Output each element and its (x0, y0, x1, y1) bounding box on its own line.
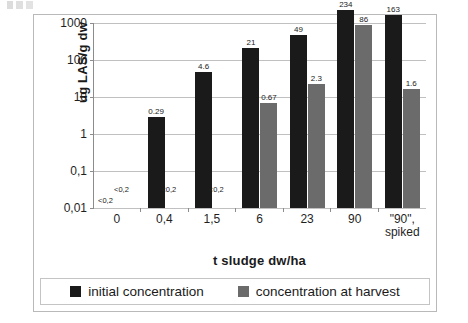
x-tick-label-6: 6 (236, 213, 284, 239)
bar-value-harvest-90-spiked: 1.6 (406, 79, 417, 88)
bar-harvest-90-spiked[interactable]: 1.6 (403, 89, 420, 208)
bar-value-harvest-6: 0.67 (261, 93, 277, 102)
category-separator (330, 208, 331, 212)
bar-harvest-23[interactable]: 2.3 (308, 84, 325, 208)
bar-initial-23[interactable]: 49 (290, 35, 307, 208)
bar-groups: <0,2 <0,2 0.29 <0,2 (94, 23, 426, 208)
bars: 49 2.3 (284, 23, 331, 208)
x-tick-label-0: 0 (93, 213, 141, 239)
ytick-label-10: 10 (74, 90, 87, 104)
legend-item-initial-concentration[interactable]: initial concentration (70, 284, 204, 299)
bar-group-6: 21 0.67 (236, 23, 283, 208)
x-tick-label-1-5-line1: 1,5 (204, 212, 221, 226)
ytick-label-0-1: 0,1 (70, 164, 87, 178)
nd-label-harvest-1-5: <0,2 (209, 185, 224, 194)
bar-value-harvest-90: 86 (359, 15, 368, 24)
bar-harvest-6[interactable]: 0.67 (260, 103, 277, 208)
category-separator (378, 208, 379, 212)
black-square-icon (70, 286, 81, 297)
bar-group-0: <0,2 <0,2 (94, 23, 141, 208)
bar-group-1-5: 4.6 <0,2 (189, 23, 236, 208)
bar-group-90-spiked: 163 1.6 (379, 23, 426, 208)
category-separator (283, 208, 284, 212)
bar-initial-90[interactable]: 234 (337, 10, 354, 209)
x-tick-label-23: 23 (283, 213, 331, 239)
gray-square-icon (238, 286, 249, 297)
x-tick-label-23-line1: 23 (300, 212, 313, 226)
nd-label-initial-0: <0,2 (98, 196, 113, 205)
nd-label-harvest-0: <0,2 (114, 185, 129, 194)
x-axis-title: t sludge dw/ha (93, 253, 426, 268)
bar-value-initial-0-4: 0.29 (148, 107, 164, 116)
bar-value-initial-6: 21 (247, 38, 256, 47)
bar-value-initial-90-spiked: 163 (387, 5, 400, 14)
x-tick-label-0-4: 0,4 (141, 213, 189, 239)
bar-group-0-4: 0.29 <0,2 (141, 23, 188, 208)
bar-value-initial-90: 234 (339, 0, 352, 9)
category-separator (188, 208, 189, 212)
gridline-0-01: 0,01 (94, 208, 426, 209)
plot-area: 1000 100 10 1 0,1 0,01 (93, 23, 426, 209)
bar-group-23: 49 2.3 (284, 23, 331, 208)
bars: 0.29 (141, 23, 188, 208)
legend-label-initial-concentration: initial concentration (88, 284, 204, 299)
tick-0-01 (90, 208, 94, 209)
bar-initial-0-4[interactable]: 0.29 (148, 117, 165, 208)
x-axis-tick-labels: 0 0,4 1,5 6 23 90 "90", spiked (93, 213, 426, 239)
legend-label-concentration-at-harvest: concentration at harvest (256, 284, 400, 299)
x-tick-label-90-spiked-line2: spiked (378, 226, 426, 239)
x-tick-label-0-line1: 0 (113, 212, 120, 226)
bar-group-90: 234 86 (331, 23, 378, 208)
plot-wrapper: 1000 100 10 1 0,1 0,01 (93, 23, 426, 209)
bars: 21 0.67 (236, 23, 283, 208)
category-separator (235, 208, 236, 212)
x-tick-label-90: 90 (331, 213, 379, 239)
bars: 163 1.6 (379, 23, 426, 208)
bar-harvest-90[interactable]: 86 (355, 25, 372, 208)
legend-item-concentration-at-harvest[interactable]: concentration at harvest (238, 284, 400, 299)
x-tick-label-90-spiked: "90", spiked (378, 213, 426, 239)
chart-frame: ug LAS/g dw 1000 100 10 1 0,1 (33, 14, 437, 312)
x-tick-label-0-4-line1: 0,4 (156, 212, 173, 226)
bar-value-harvest-23: 2.3 (311, 74, 322, 83)
x-tick-label-90-spiked-line1: "90", (390, 212, 415, 226)
scan-artifact (7, 1, 33, 9)
x-tick-label-90-line1: 90 (348, 212, 361, 226)
bar-value-initial-1-5: 4.6 (198, 62, 209, 71)
x-tick-label-6-line1: 6 (256, 212, 263, 226)
bar-value-initial-23: 49 (294, 25, 303, 34)
legend: initial concentration concentration at h… (40, 278, 430, 305)
bars: 234 86 (331, 23, 378, 208)
ytick-label-100: 100 (67, 53, 87, 67)
ytick-label-0-01: 0,01 (64, 201, 87, 215)
category-separator (140, 208, 141, 212)
ytick-label-1000: 1000 (60, 16, 87, 30)
ytick-label-1: 1 (80, 127, 87, 141)
x-tick-label-1-5: 1,5 (188, 213, 236, 239)
nd-label-harvest-0-4: <0,2 (161, 185, 176, 194)
bar-initial-90-spiked[interactable]: 163 (385, 15, 402, 208)
bars: 4.6 (189, 23, 236, 208)
bar-initial-6[interactable]: 21 (242, 48, 259, 208)
